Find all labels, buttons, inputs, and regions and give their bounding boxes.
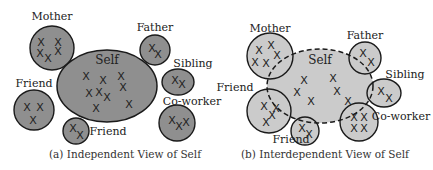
other-label: Friend (15, 77, 52, 90)
other-label: Father (347, 29, 384, 42)
other-label: Sibling (385, 68, 424, 81)
self-trait-mark: X (82, 70, 90, 83)
self-trait-mark: X (103, 91, 111, 104)
trait-mark: X (273, 49, 281, 62)
trait-mark: X (54, 45, 62, 58)
other-co-worker-node: XXXCo-worker (159, 95, 222, 141)
panel-caption: (b) Interdependent View of Self (241, 148, 410, 160)
self-label: Self (95, 53, 120, 67)
trait-mark: X (178, 78, 186, 91)
other-label: Friend (89, 125, 126, 138)
other-label: Father (137, 21, 174, 34)
trait-mark: X (36, 101, 44, 114)
other-label: Mother (31, 10, 73, 23)
other-co-worker-node: XXXXCo-worker (340, 103, 431, 141)
other-label: Co-worker (372, 110, 431, 123)
trait-mark: X (350, 122, 358, 135)
trait-mark: X (251, 56, 259, 69)
self-trait-mark: X (119, 81, 127, 94)
trait-mark: X (23, 101, 31, 114)
trait-mark: X (44, 52, 52, 65)
self-trait-mark: X (293, 86, 301, 99)
other-father-node: XXFather (137, 21, 174, 65)
other-label: Co-worker (163, 95, 222, 108)
self-trait-mark: X (333, 85, 341, 98)
other-sibling-node: XXSibling (162, 57, 213, 95)
other-label: Friend (272, 133, 309, 146)
self-trait-mark: X (92, 102, 100, 115)
other-mother-node: XXXXXMother (30, 10, 74, 70)
trait-mark: X (367, 56, 375, 69)
self-trait-mark: X (307, 95, 315, 108)
self-trait-mark: X (344, 95, 352, 108)
trait-mark: X (260, 100, 268, 113)
other-label: Mother (249, 22, 291, 35)
trait-mark: X (36, 47, 44, 60)
trait-mark: X (29, 114, 37, 127)
trait-mark: X (154, 48, 162, 61)
trait-mark: X (360, 122, 368, 135)
self-trait-mark: X (300, 74, 308, 87)
interdependent-view-panel: XXXXXMotherXXFatherXXSiblingXXXXFriendXX… (216, 22, 431, 160)
other-mother-node: XXXXXMother (247, 22, 293, 79)
trait-mark: X (377, 85, 385, 98)
self-trait-mark: X (95, 86, 103, 99)
self-trait-mark: X (329, 72, 337, 85)
trait-mark: X (262, 116, 270, 129)
trait-mark: X (76, 129, 84, 142)
trait-mark: X (182, 116, 190, 129)
independent-view-panel: XXXXXMotherXXFatherXXSiblingXXXFriendXXF… (14, 10, 222, 160)
self-label: Self (308, 53, 333, 67)
self-construal-diagram: XXXXXMotherXXFatherXXSiblingXXXFriendXXF… (0, 0, 433, 170)
other-sibling-node: XXSibling (367, 68, 425, 107)
trait-mark: X (385, 92, 393, 105)
self-trait-mark: X (125, 98, 133, 111)
other-friend-node: XXXFriend (14, 77, 54, 130)
trait-mark: X (359, 47, 367, 60)
other-label: Friend (216, 81, 253, 94)
other-label: Sibling (173, 57, 212, 70)
trait-mark: X (262, 57, 270, 70)
other-father-node: XXFather (347, 29, 384, 74)
self-trait-mark: X (85, 87, 93, 100)
panel-caption: (a) Independent View of Self (49, 148, 202, 160)
